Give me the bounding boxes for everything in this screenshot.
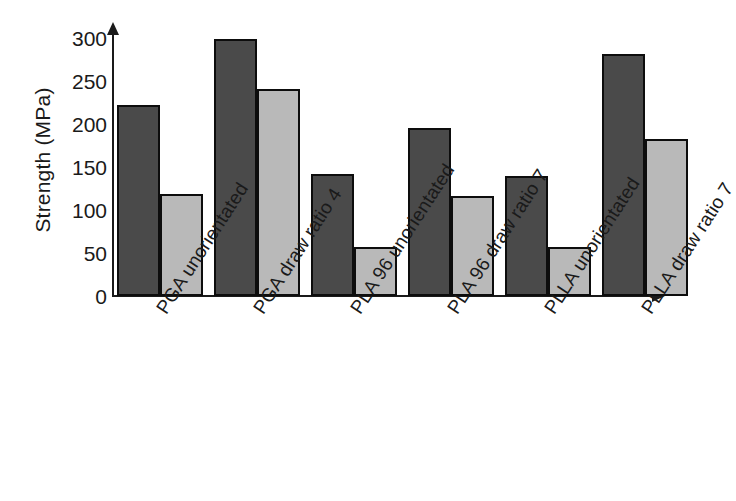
x-axis-category-label: PLA 96 draw ratio 7 (443, 165, 553, 318)
x-axis-category-label: PLLA draw ratio 7 (637, 179, 736, 318)
x-axis-category-label: PLA 96 unorientated (346, 160, 459, 318)
x-axis-category-label: PGA unorientated (152, 179, 253, 318)
x-axis-category-label: PLLA unorientated (540, 173, 645, 318)
x-axis-category-label: PGA draw ratio 4 (249, 184, 347, 318)
